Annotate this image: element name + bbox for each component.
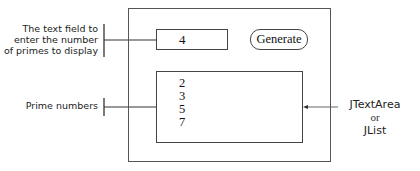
annotation-jtextarea: JTextArea (340, 98, 410, 111)
prime-output-area[interactable]: 2 3 5 7 (156, 71, 303, 143)
prime-list: 2 3 5 7 (179, 77, 185, 129)
annotation-line: enter the number (0, 34, 98, 45)
prime-numbers-annotation: Prime numbers (26, 100, 98, 111)
prime-item: 7 (179, 116, 185, 129)
annotation-line: of primes to display (0, 45, 98, 56)
annotation-line: The text field to (0, 23, 98, 34)
component-type-annotation: JTextArea or JList (340, 98, 410, 137)
annotation-jlist: JList (340, 124, 410, 137)
generate-button[interactable]: Generate (250, 29, 308, 50)
prime-count-input[interactable]: 4 (156, 29, 228, 50)
prime-count-value: 4 (179, 32, 186, 48)
annotation-or: or (340, 111, 410, 124)
text-field-annotation: The text field to enter the number of pr… (0, 23, 98, 56)
